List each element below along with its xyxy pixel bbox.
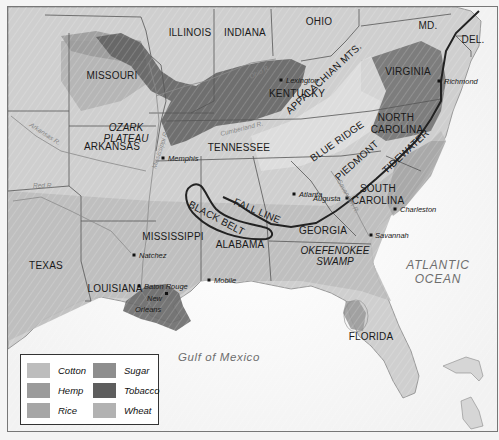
city-label: Richmond — [444, 77, 479, 86]
city-dot-icon — [293, 193, 296, 196]
legend-label: Wheat — [124, 405, 151, 416]
legend-item-cotton: Cotton — [27, 363, 86, 378]
city-label: Memphis — [168, 154, 199, 163]
state-label: SOUTH — [360, 183, 396, 194]
state-label: MISSOURI — [86, 70, 137, 81]
city-label: Mobile — [214, 276, 236, 285]
legend-item-tobacco: Tobacco — [93, 383, 160, 398]
city-dot-icon — [162, 157, 165, 160]
city-label: Augusta — [312, 194, 341, 203]
region-label: PLATEAU — [104, 133, 150, 144]
state-label: LOUISIANA — [87, 283, 142, 294]
city-label: Lexington — [286, 76, 319, 85]
legend-swatch — [93, 383, 116, 398]
region-label: OZARK — [109, 122, 145, 133]
state-label: GEORGIA — [299, 225, 347, 236]
city-dot-icon — [165, 292, 168, 295]
state-label: NORTH — [378, 112, 414, 123]
legend-item-wheat: Wheat — [93, 403, 151, 418]
state-label: CAROLINA — [352, 195, 405, 206]
city-label: Charleston — [400, 205, 436, 214]
state-label: ALABAMA — [216, 239, 265, 250]
gulf-label: Gulf of Mexico — [178, 351, 260, 363]
city-dot-icon — [394, 208, 397, 211]
city-dot-icon — [370, 234, 373, 237]
state-label: TENNESSEE — [208, 142, 271, 153]
state-label: TEXAS — [29, 260, 63, 271]
legend-swatch — [27, 383, 50, 398]
state-label: MISSISSIPPI — [142, 231, 204, 242]
legend-swatch — [27, 363, 50, 378]
map-legend: Cotton Hemp Rice Sugar Tobacco Wheat — [20, 354, 159, 425]
legend-label: Tobacco — [124, 385, 160, 396]
legend-swatch — [27, 403, 50, 418]
city-label: Orleans — [135, 305, 162, 314]
city-label: Savannah — [375, 231, 409, 240]
state-label: MD. — [419, 20, 438, 31]
city-dot-icon — [280, 79, 283, 82]
atlantic-label-line1: ATLANTIC — [405, 258, 470, 272]
state-label: DEL. — [461, 34, 484, 45]
city-dot-icon — [438, 80, 441, 83]
state-label: ILLINOIS — [169, 27, 212, 38]
city-label: New — [147, 294, 163, 303]
legend-item-sugar: Sugar — [93, 363, 149, 378]
legend-label: Sugar — [124, 365, 149, 376]
river-label: Red R. — [33, 182, 53, 189]
map-frame: ILLINOISINDIANAOHIOMD.DEL.MISSOURIKENTUC… — [0, 0, 499, 440]
city-dot-icon — [138, 285, 141, 288]
city-dot-icon — [208, 279, 211, 282]
state-label: FLORIDA — [349, 331, 394, 342]
legend-swatch — [93, 363, 116, 378]
legend-label: Cotton — [58, 365, 86, 376]
city-label: Natchez — [139, 251, 167, 260]
state-label: OHIO — [306, 16, 332, 27]
legend-label: Rice — [58, 405, 77, 416]
legend-item-hemp: Hemp — [27, 383, 83, 398]
legend-label: Hemp — [58, 385, 83, 396]
legend-item-rice: Rice — [27, 403, 77, 418]
city-dot-icon — [133, 254, 136, 257]
atlantic-label-line2: OCEAN — [415, 272, 462, 286]
legend-swatch — [93, 403, 116, 418]
region-label: OKEFENOKEE — [301, 245, 370, 256]
state-label: INDIANA — [224, 27, 266, 38]
state-label: VIRGINIA — [385, 66, 431, 77]
region-label: SWAMP — [316, 256, 354, 267]
city-label: Baton Rouge — [144, 282, 188, 291]
